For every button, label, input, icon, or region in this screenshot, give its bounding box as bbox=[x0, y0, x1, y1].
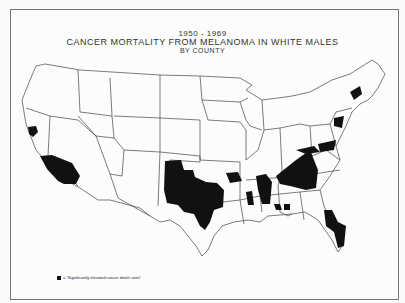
us-county-map bbox=[0, 0, 405, 303]
map-legend: = "Significantly elevated cancer death r… bbox=[57, 275, 141, 280]
legend-square-icon bbox=[57, 276, 61, 280]
legend-text: = "Significantly elevated cancer death r… bbox=[63, 275, 141, 280]
elevated-counties bbox=[28, 86, 362, 248]
